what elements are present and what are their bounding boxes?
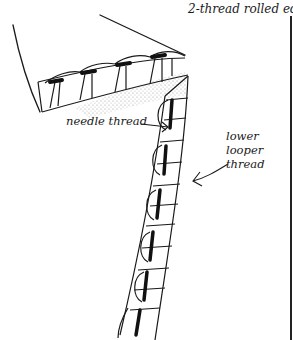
needle-stitches-vertical bbox=[136, 100, 172, 335]
label-line-thread: thread bbox=[226, 157, 265, 171]
figure-title: 2-thread rolled edge bbox=[188, 3, 293, 16]
rolled-edge-illustration: 2-thread rolled edge needle thread lower… bbox=[0, 0, 293, 340]
right-border-rule bbox=[290, 16, 292, 340]
label-line-looper: looper bbox=[226, 143, 265, 157]
label-line-lower: lower bbox=[226, 129, 265, 143]
lower-looper-thread-label: lower looper thread bbox=[226, 129, 265, 171]
needle-thread-label: needle thread bbox=[66, 115, 147, 128]
looper-thread-arrow bbox=[193, 164, 228, 181]
needle-stitches-horizontal bbox=[50, 55, 165, 82]
